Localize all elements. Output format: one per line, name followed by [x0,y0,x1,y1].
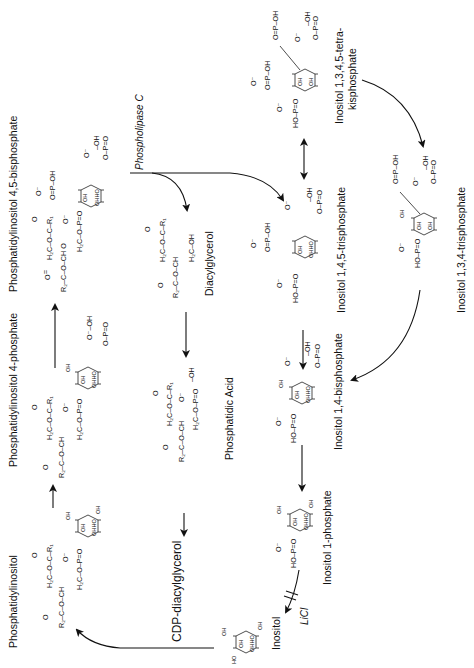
svg-text:H₂C–OH: H₂C–OH [187,234,196,262]
svg-text:O⁻: O⁻ [274,416,283,426]
label-ip3: Inositol 1,4,5-trisphosphate [335,187,347,313]
svg-text:HO–P=O: HO–P=O [291,98,300,128]
arrow-ip1-to-inositol [286,570,299,612]
svg-text:H₂C–O–C–R₁: H₂C–O–C–R₁ [45,216,54,260]
svg-text:O⁻: O⁻ [275,102,284,112]
svg-text:OH: OH [297,246,303,254]
svg-text:–OH: –OH [303,11,312,26]
svg-text:OH: OH [238,640,244,648]
svg-text:O=P–OH: O=P–OH [48,171,57,200]
structure-inositol: OH OHHO OH OH HO [221,622,263,664]
label-cdp-dag: CDP-diacylglycerol [170,541,184,642]
svg-text:O⁻: O⁻ [275,278,284,288]
svg-text:H₂C–O–P=O: H₂C–O–P=O [75,210,84,252]
svg-text:O⁻: O⁻ [177,392,186,402]
svg-text:OH: OH [95,506,101,514]
svg-text:OHHO: OHHO [94,189,100,206]
svg-text:OH: OH [427,222,433,230]
svg-text:HO–P=O: HO–P=O [413,238,422,268]
svg-text:OH: OH [65,364,71,372]
svg-text:O–P=O: O–P=O [101,135,110,160]
enzyme-phospholipase-c: Phospholipase C [134,94,145,170]
svg-text:OH: OH [297,78,303,86]
svg-text:OH: OH [292,518,298,526]
svg-text:H₂C–O–C–R₁: H₂C–O–C–R₁ [165,382,174,426]
label-ip1: Inositol 1-phosphate [321,490,333,585]
svg-text:O: O [151,390,160,396]
structure-ip2: HO–P=O O⁻ OH OHHO OH O⁻ O–P=O –OH [274,341,322,443]
svg-text:O–P=O: O–P=O [315,189,324,214]
svg-text:O⁻: O⁻ [249,238,258,248]
svg-text:O⁻: O⁻ [283,356,292,366]
svg-text:O: O [30,552,39,558]
svg-text:O: O [41,614,50,620]
svg-text:O⁻: O⁻ [61,214,70,224]
label-ip4-line1: Inositol 1,3,4,5-tetra- [333,27,345,124]
structure-ip3-134: HO–P=O O⁻ OH OH OH O=P–OH O⁻ O–P=O –OH [391,155,438,268]
label-ip4-line2: kisphosphate [346,48,358,110]
structure-ip1: HO–P=O O⁻ OH OHHO OH OH [274,500,314,568]
svg-text:O: O [156,282,165,288]
svg-text:O⁻: O⁻ [249,76,258,86]
arrow-ip4-to-ip3-134 [362,80,423,146]
label-ip3-134: Inositol 1,3,4-trisphosphate [455,187,467,313]
svg-text:OH: OH [399,210,405,218]
svg-text:OHHO: OHHO [303,513,309,530]
structure-pi4p: R₂–C–O–CH O H₂C–O–C–R₁ O H₂C–O–P=O O⁻ OH… [30,316,110,478]
label-ip2: Inositol 1,4-bisphosphate [332,333,344,450]
svg-text:–OH: –OH [187,367,196,382]
svg-text:O⁻: O⁻ [397,242,406,252]
svg-text:O⁻: O⁻ [61,402,70,412]
svg-text:OHHO: OHHO [249,635,255,652]
structure-ip4: HO–P=O O⁻ O=P–OH O⁻ OH OH O=P–OH O⁻ O–P=… [249,11,320,128]
svg-text:O–P=O: O–P=O [429,159,438,184]
svg-text:HO–P=O: HO–P=O [291,273,300,303]
licl-block-mark-1 [286,591,298,595]
svg-text:OH: OH [308,78,314,86]
svg-text:OH: OH [65,512,71,520]
svg-text:O–P=O: O–P=O [311,15,320,40]
enzyme-licl: LiCl [299,607,310,625]
svg-text:O⁻: O⁻ [293,32,302,42]
svg-text:O⁻: O⁻ [61,552,70,562]
svg-text:O=P–OH: O=P–OH [271,11,280,40]
svg-text:O–P=O: O–P=O [313,343,322,368]
svg-text:O⁻: O⁻ [34,186,43,196]
label-dag: Diacylglycerol [203,231,215,296]
svg-text:OH: OH [276,506,282,514]
svg-text:H₂C–O–P=O: H₂C–O–P=O [75,398,84,440]
svg-text:=: = [41,270,50,274]
svg-text:O⁻: O⁻ [82,148,91,158]
svg-text:OHHO: OHHO [308,241,314,258]
structure-dag: R₂–C–O–CH O H₂C–O–C–R₁ O H₂C–OH [143,218,196,298]
svg-text:O: O [143,226,152,232]
label-pip2: Phosphatidylinositol 4,5-bisphosphate [7,116,19,292]
svg-text:OHHO: OHHO [91,371,97,388]
svg-text:OHHO: OHHO [305,386,311,403]
svg-text:H₂C–O–C–R₁: H₂C–O–C–R₁ [45,396,54,440]
arrow-plc-to-ip3 [152,173,283,200]
svg-text:O–P=O: O–P=O [101,321,110,346]
svg-text:OH: OH [257,622,263,630]
svg-text:H₂C–O–C–R₁: H₂C–O–C–R₁ [158,218,167,262]
label-pi: Phosphatidylinositol [7,555,19,648]
structure-ip3: HO–P=O O⁻ O=P–OH O⁻ OH OHHO O⁻ O–P=O –OH [249,187,324,303]
svg-text:O=P–OH: O=P–OH [263,61,272,90]
svg-text:O=P–OH: O=P–OH [391,155,400,184]
svg-text:R₂–C–O–CH: R₂–C–O–CH [57,437,66,478]
svg-text:–OH: –OH [421,155,430,170]
svg-text:OH: OH [308,500,314,508]
svg-text:H₂C–O–P=O: H₂C–O–P=O [75,548,84,590]
label-pi4p: Phosphatidylinositol 4-phosphate [7,313,19,467]
svg-text:–OH: –OH [303,341,312,356]
svg-text:O=P–OH: O=P–OH [263,223,272,252]
arrow-inositol-to-pi [77,630,214,648]
arrow-ip3-134-to-ip2 [352,290,420,380]
svg-text:OHHO: OHHO [91,519,97,536]
svg-text:HO–P=O: HO–P=O [289,413,298,443]
svg-text:HO: HO [231,655,237,664]
svg-text:OH: OH [294,391,300,399]
svg-text:O: O [41,464,50,470]
svg-text:OH: OH [80,524,86,532]
svg-text:H₂C–O–P=O: H₂C–O–P=O [191,388,200,430]
